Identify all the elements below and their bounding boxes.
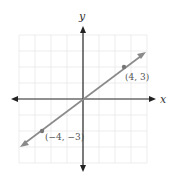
y-axis-top-arrow-icon <box>80 26 86 33</box>
point-4-3 <box>122 65 126 69</box>
coordinate-plane: (4, 3) (−4, −3) x y <box>0 0 176 183</box>
y-axis-bottom-arrow-icon <box>80 165 86 172</box>
point-4-3-label: (4, 3) <box>125 72 149 82</box>
x-axis-left-arrow-icon <box>11 96 18 102</box>
y-axis-label: y <box>78 10 86 23</box>
x-axis-label: x <box>160 93 167 106</box>
point-neg4-neg3 <box>40 129 44 133</box>
x-axis-right-arrow-icon <box>149 96 156 102</box>
point-neg4-neg3-label: (−4, −3) <box>45 132 84 142</box>
